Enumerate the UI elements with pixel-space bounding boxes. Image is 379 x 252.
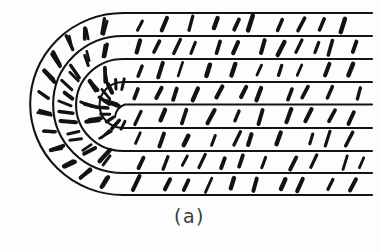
director-rod — [257, 65, 262, 75]
director-rod — [329, 110, 335, 121]
director-rod — [165, 179, 170, 189]
director-rod — [256, 88, 261, 100]
director-rod — [97, 107, 108, 108]
director-rod — [59, 101, 71, 106]
director-rod — [357, 88, 360, 99]
director-rod — [315, 42, 319, 52]
smectic-hairpin-diagram — [0, 0, 379, 252]
director-rod — [212, 136, 216, 146]
director-rod — [154, 41, 159, 52]
director-rod — [341, 19, 345, 32]
director-rod — [184, 180, 189, 190]
director-rod — [281, 179, 285, 189]
director-rod — [189, 16, 193, 30]
director-rod — [348, 64, 353, 76]
director-rod — [253, 179, 256, 191]
director-rod — [262, 157, 266, 167]
director-rod — [206, 65, 209, 76]
director-rod — [278, 20, 283, 31]
director-rod — [182, 110, 187, 124]
director-rod — [65, 93, 73, 99]
director-rod — [311, 155, 317, 167]
director-rod — [184, 136, 189, 145]
director-rod — [239, 155, 243, 166]
director-rod — [248, 16, 253, 31]
director-rod — [258, 110, 262, 124]
director-rod — [134, 89, 138, 98]
director-rod — [297, 65, 302, 75]
director-rod — [277, 133, 281, 145]
director-rod — [178, 62, 182, 76]
director-rod — [139, 158, 144, 168]
director-rod — [290, 157, 296, 169]
director-rod — [343, 156, 347, 169]
director-rod — [231, 178, 234, 188]
director-rod — [173, 89, 177, 100]
director-rod — [261, 40, 265, 53]
director-rod — [136, 133, 141, 143]
director-rod — [62, 80, 72, 89]
director-rod — [278, 42, 285, 55]
director-rod — [310, 134, 313, 144]
director-rod — [133, 176, 140, 190]
director-rod — [103, 177, 109, 186]
director-rod — [296, 40, 302, 52]
director-rod — [61, 121, 76, 122]
director-rod — [348, 112, 353, 124]
director-rod — [68, 131, 79, 134]
director-rod — [161, 110, 165, 120]
director-rod — [156, 88, 161, 98]
director-rod — [217, 41, 221, 53]
director-rod — [182, 156, 187, 165]
director-rod — [286, 109, 291, 122]
director-rod — [346, 132, 353, 145]
director-rod — [298, 18, 305, 31]
director-rod — [205, 178, 211, 192]
director-rod — [162, 18, 167, 30]
director-rod — [191, 42, 195, 53]
director-rod — [353, 42, 357, 52]
director-rod — [241, 87, 246, 97]
director-rod — [59, 111, 73, 113]
director-rod — [174, 39, 181, 53]
director-rod — [320, 19, 325, 30]
director-rod — [122, 79, 124, 90]
director-rod — [107, 117, 114, 122]
director-rod — [279, 65, 282, 75]
director-rod — [216, 86, 222, 97]
director-rod — [302, 87, 308, 98]
director-rod — [135, 111, 141, 124]
director-rod — [234, 132, 241, 145]
director-rod — [70, 139, 82, 141]
director-rod — [231, 64, 235, 76]
director-rod — [138, 21, 143, 30]
director-rod — [214, 18, 218, 28]
director-rod — [163, 157, 168, 170]
director-rod — [199, 154, 205, 167]
director-rod — [193, 89, 198, 101]
director-rod — [359, 158, 363, 168]
director-rod — [328, 40, 332, 55]
director-rod — [159, 134, 164, 147]
director-rod — [158, 63, 163, 77]
director-rod — [137, 40, 140, 52]
director-rod — [221, 158, 225, 168]
director-rod — [350, 179, 356, 190]
director-rod — [51, 149, 62, 151]
figure-root: (a) — [0, 0, 379, 252]
director-rod — [233, 42, 238, 53]
director-rod — [248, 134, 251, 145]
director-rod — [327, 87, 332, 98]
director-rod — [138, 66, 142, 76]
director-rod — [235, 111, 239, 121]
director-rod — [105, 44, 107, 56]
director-rod — [86, 120, 98, 121]
director-rod — [297, 179, 302, 191]
director-rod — [305, 109, 311, 121]
director-rod — [234, 20, 239, 30]
layer-boundary-group — [30, 13, 372, 195]
director-rod — [328, 180, 333, 190]
director-rod — [325, 131, 330, 146]
director-rod — [325, 64, 329, 76]
director-rod — [208, 110, 215, 123]
